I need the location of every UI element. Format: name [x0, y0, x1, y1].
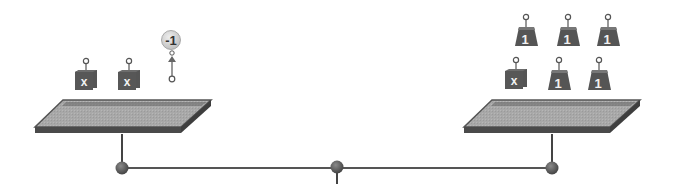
unit-weight: 1: [515, 14, 538, 47]
variable-block: x: [75, 58, 97, 90]
hook-ring-icon: [169, 76, 175, 82]
balance-scale-diagram: x x -1 1: [0, 0, 673, 190]
hook-ring-icon: [556, 57, 561, 62]
beam: [116, 134, 559, 184]
weight-label: 1: [594, 76, 601, 91]
right-pan: [464, 100, 640, 133]
weight-label: 1: [563, 32, 570, 47]
hook-ring-icon: [126, 58, 131, 63]
variable-block: x: [118, 58, 140, 90]
block-label: x: [511, 74, 518, 88]
unit-weight: 1: [597, 14, 620, 47]
weight-label: 1: [521, 32, 528, 47]
block-label: x: [124, 75, 131, 89]
block-label: x: [81, 75, 88, 89]
right-pan-items: 1 1 1 x 1: [505, 14, 620, 91]
weight-label: 1: [603, 32, 610, 47]
left-pan: [35, 100, 211, 133]
left-pan-items: x x -1: [75, 31, 181, 91]
unit-weight: 1: [588, 57, 611, 91]
hook-ring-icon: [565, 14, 570, 19]
hook-ring-icon: [596, 57, 601, 62]
hook-ring-icon: [513, 57, 518, 62]
balloon-label: -1: [165, 33, 177, 48]
hook-ring-icon: [83, 58, 88, 63]
left-pivot-ball: [116, 162, 129, 175]
variable-block: x: [505, 57, 527, 89]
unit-weight: 1: [548, 57, 571, 91]
balloon: -1: [162, 31, 181, 82]
center-pivot-ball: [331, 161, 344, 174]
right-pivot-ball: [546, 162, 559, 175]
hook-ring-icon: [523, 14, 528, 19]
unit-weight: 1: [557, 14, 580, 47]
weight-label: 1: [554, 76, 561, 91]
hook-ring-icon: [605, 14, 610, 19]
